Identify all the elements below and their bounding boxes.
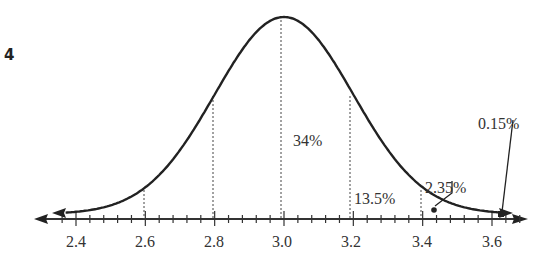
- tick-label-2.8: 2.8: [204, 233, 224, 250]
- pointer-dot-2.35: [431, 207, 437, 213]
- tick-label-3.6: 3.6: [482, 233, 502, 250]
- tick-label-2.6: 2.6: [135, 233, 155, 250]
- pointer-mark-0.15: [498, 211, 504, 217]
- pointer-0.15: [502, 120, 513, 212]
- label-2.35-percent: 2.35%: [425, 179, 466, 196]
- normal-distribution-chart: 34% 13.5% 2.35% 0.15% 2.4 2.6 2.8 3.0 3.…: [0, 0, 553, 266]
- label-13.5-percent: 13.5%: [354, 190, 395, 207]
- curve-left-arrow-icon: [52, 208, 66, 218]
- axis-left-arrow-icon: [34, 214, 48, 224]
- label-0.15-percent: 0.15%: [478, 115, 519, 132]
- tick-label-2.4: 2.4: [66, 233, 86, 250]
- tick-label-3.2: 3.2: [341, 233, 361, 250]
- x-tick-labels: 2.4 2.6 2.8 3.0 3.2 3.4 3.6: [66, 233, 502, 250]
- tick-label-3.0: 3.0: [272, 233, 292, 250]
- tick-label-3.4: 3.4: [412, 233, 432, 250]
- label-34-percent: 34%: [293, 132, 322, 149]
